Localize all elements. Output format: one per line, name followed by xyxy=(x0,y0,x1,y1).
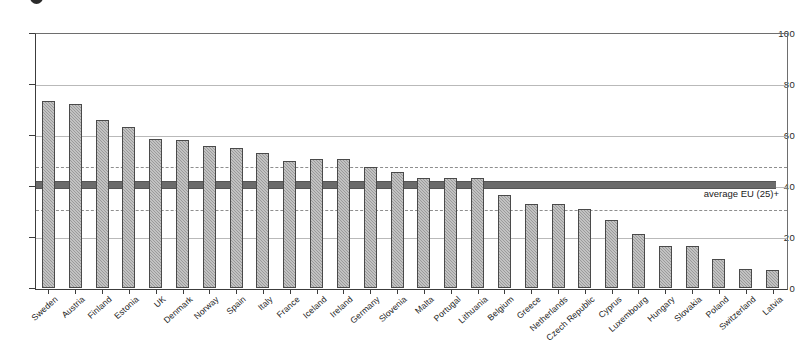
bar xyxy=(659,246,672,288)
x-tick-label: Hungary xyxy=(646,294,677,324)
x-tick-label: Belgium xyxy=(486,294,516,323)
bar xyxy=(632,234,645,288)
bar xyxy=(578,209,591,288)
x-tick-label: Estonia xyxy=(112,294,141,321)
bar xyxy=(203,146,216,288)
x-axis-labels: SwedenAustriaFinlandEstoniaUKDenmarkNorw… xyxy=(35,294,795,338)
bar xyxy=(417,178,430,288)
x-tick-label: Austria xyxy=(60,294,87,320)
bar xyxy=(337,159,350,288)
x-tick-label: Iceland xyxy=(301,294,329,320)
bar xyxy=(686,246,699,288)
x-tick-label: Norway xyxy=(192,294,221,321)
bar xyxy=(256,153,269,288)
x-tick-label: UK xyxy=(152,294,168,310)
bar xyxy=(444,178,457,288)
x-tick-label: Latvia xyxy=(760,294,784,317)
x-tick-label: Czech Republic xyxy=(544,294,596,343)
bar xyxy=(364,167,377,288)
bar xyxy=(176,140,189,288)
bar xyxy=(42,101,55,288)
bar xyxy=(122,127,135,288)
bar xyxy=(310,159,323,288)
bar-series xyxy=(35,33,786,288)
x-tick-label: Spain xyxy=(224,294,247,316)
bar xyxy=(552,204,565,288)
x-tick-label: Sweden xyxy=(30,294,60,323)
bar xyxy=(498,195,511,288)
x-tick-label: Finland xyxy=(86,294,114,321)
bar xyxy=(149,139,162,288)
bar xyxy=(739,269,752,288)
x-tick-label: Slovakia xyxy=(672,294,703,324)
x-tick-label: Italy xyxy=(256,294,275,312)
bar xyxy=(471,178,484,288)
bar xyxy=(283,161,296,289)
bar xyxy=(605,220,618,288)
x-tick-label: Malta xyxy=(413,294,436,316)
bar xyxy=(391,172,404,288)
bar xyxy=(96,120,109,288)
bar xyxy=(766,270,779,288)
x-tick-label: Germany xyxy=(348,294,381,326)
x-tick-label: France xyxy=(274,294,301,320)
x-tick-label: Slovenia xyxy=(377,294,409,324)
bar xyxy=(69,104,82,288)
bar xyxy=(712,259,725,288)
bar xyxy=(230,148,243,288)
bar xyxy=(525,204,538,288)
